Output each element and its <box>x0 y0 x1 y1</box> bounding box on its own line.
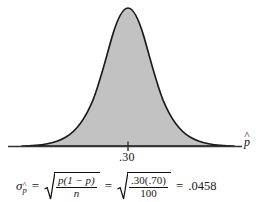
sigma-subscript-p-hat: ^p <box>22 185 26 195</box>
x-tick-label-30: .30 <box>119 150 135 165</box>
bell-curve-plot: .30 ^p <box>0 0 258 168</box>
left-fraction: p(1 − p) n <box>56 175 97 199</box>
right-fraction-numerator: .30(.70) <box>129 175 168 187</box>
equals-sign-2: = <box>105 178 112 194</box>
formula-result: .0458 <box>188 179 216 194</box>
x-axis-name-label: ^p <box>244 135 250 150</box>
sampling-distribution-figure: .30 ^p σ^p = p(1 − p) n = <box>0 0 258 202</box>
p-hat-caret: ^ <box>244 130 250 141</box>
left-fraction-numerator: p(1 − p) <box>56 175 97 187</box>
equals-sign-1: = <box>32 178 39 194</box>
right-fraction-denominator: 100 <box>129 187 168 200</box>
sigma-symbol: σ^p <box>16 178 27 194</box>
right-square-root: .30(.70) 100 <box>117 172 171 200</box>
radical-sign-left <box>44 172 55 200</box>
left-radicand: p(1 − p) n <box>54 172 100 200</box>
right-radicand: .30(.70) 100 <box>127 172 171 200</box>
normal-curve-fill <box>22 8 234 146</box>
radical-sign-right <box>117 172 128 200</box>
equals-sign-3: = <box>176 178 183 194</box>
standard-error-formula: σ^p = p(1 − p) n = <box>16 170 256 202</box>
left-fraction-denominator: n <box>56 187 97 200</box>
left-square-root: p(1 − p) n <box>44 172 100 200</box>
subscript-hat-caret: ^ <box>22 182 26 190</box>
bell-curve-svg <box>0 0 258 168</box>
right-fraction: .30(.70) 100 <box>129 175 168 199</box>
